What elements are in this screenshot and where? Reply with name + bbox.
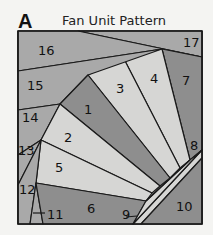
label-12: 12 <box>19 182 36 197</box>
label-11: 11 <box>47 207 64 222</box>
label-4: 4 <box>150 71 158 86</box>
label-6: 6 <box>87 201 95 216</box>
label-1: 1 <box>84 102 92 117</box>
label-17: 17 <box>183 35 200 50</box>
label-14: 14 <box>22 110 39 125</box>
label-13: 13 <box>18 143 35 158</box>
label-2: 2 <box>64 130 72 145</box>
label-7: 7 <box>182 73 190 88</box>
label-8: 8 <box>190 138 198 153</box>
label-5: 5 <box>55 160 63 175</box>
fan-unit-pattern-diagram: 17 16 15 14 13 12 11 1 2 3 4 5 6 7 8 9 1… <box>0 0 213 235</box>
label-16: 16 <box>38 43 55 58</box>
label-3: 3 <box>116 81 124 96</box>
label-9: 9 <box>122 207 130 222</box>
label-10: 10 <box>176 199 193 214</box>
label-15: 15 <box>27 78 44 93</box>
